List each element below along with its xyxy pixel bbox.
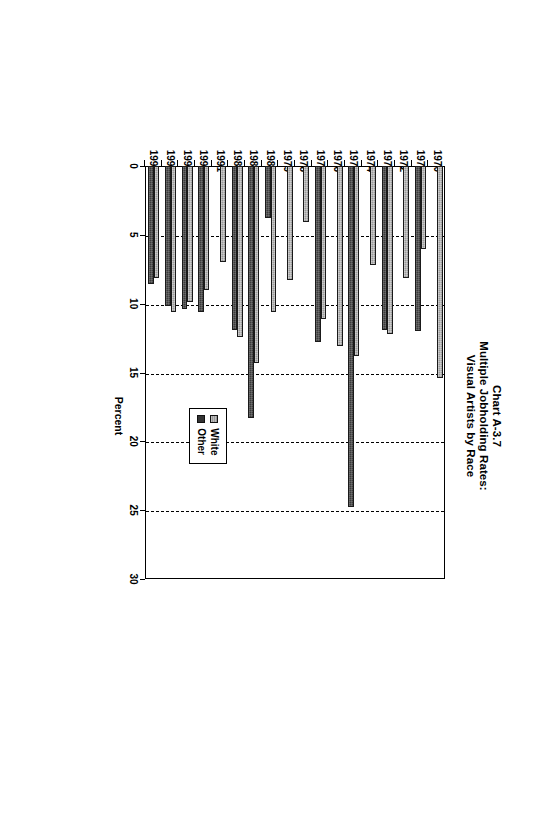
bar-white-1997 xyxy=(154,166,160,278)
y-tick-1971 xyxy=(411,160,412,166)
bar-white-1989 xyxy=(237,166,243,337)
white-hatched-swatch xyxy=(210,415,218,423)
y-tick-1978 xyxy=(294,160,295,166)
bar-other-1973 xyxy=(382,166,388,330)
bar-white-1979 xyxy=(287,166,293,280)
legend-label-white: White xyxy=(208,428,221,455)
x-tick-10 xyxy=(140,304,145,305)
y-tick-1974 xyxy=(361,160,362,166)
chart-canvas: Chart A-3.7 Multiple Jobholding Rates: V… xyxy=(35,46,505,786)
gridline-25 xyxy=(146,511,444,512)
bar-other-1995 xyxy=(182,166,188,309)
x-tick-15 xyxy=(140,373,145,374)
legend-item-white: White xyxy=(208,415,221,455)
legend-label-other: Other xyxy=(195,428,208,455)
bar-white-1995 xyxy=(187,166,193,302)
bar-white-1977 xyxy=(321,166,327,319)
bar-other-1971 xyxy=(415,166,421,331)
bar-other-1977 xyxy=(315,166,321,342)
legend-item-other: Other xyxy=(195,415,208,455)
bar-white-1974 xyxy=(370,166,376,265)
bar-white-1978 xyxy=(304,166,310,222)
bar-white-1970 xyxy=(437,166,443,378)
gridline-15 xyxy=(146,374,444,375)
bar-white-1976 xyxy=(337,166,343,346)
chart-title-line-2: Multiple Jobholding Rates: xyxy=(477,46,490,786)
y-tick-1975 xyxy=(344,160,345,166)
y-tick-1995 xyxy=(177,160,178,166)
x-tick-label-30: 30 xyxy=(128,573,139,584)
bar-white-1996 xyxy=(171,166,177,312)
chart-figure: Chart A-3.7 Multiple Jobholding Rates: V… xyxy=(0,0,540,832)
bar-other-1997 xyxy=(148,166,154,284)
x-tick-label-20: 20 xyxy=(128,436,139,447)
x-tick-label-5: 5 xyxy=(128,232,139,238)
y-tick-1991 xyxy=(211,160,212,166)
y-tick-1994 xyxy=(194,160,195,166)
y-tick-1989 xyxy=(227,160,228,166)
bar-other-1989 xyxy=(232,166,238,330)
bar-white-1980 xyxy=(271,166,277,312)
x-axis-title: Percent xyxy=(113,46,125,786)
dark-solid-swatch xyxy=(197,415,205,423)
x-tick-label-0: 0 xyxy=(128,163,139,169)
bar-other-1980 xyxy=(265,166,271,218)
bar-white-1985 xyxy=(254,166,260,363)
bar-white-1971 xyxy=(421,166,427,249)
legend: WhiteOther xyxy=(189,408,227,463)
bar-other-1996 xyxy=(165,166,171,306)
bar-white-1972 xyxy=(404,166,410,278)
bar-other-1975 xyxy=(348,166,354,507)
chart-title-line-3: Visual Artists by Race xyxy=(464,46,477,786)
y-tick-1972 xyxy=(394,160,395,166)
y-tick-1970 xyxy=(427,160,428,166)
y-tick-1997 xyxy=(144,160,145,166)
x-tick-label-10: 10 xyxy=(128,298,139,309)
x-tick-label-25: 25 xyxy=(128,505,139,516)
x-tick-0 xyxy=(140,166,145,167)
y-tick-1985 xyxy=(244,160,245,166)
bar-white-1973 xyxy=(387,166,393,334)
x-tick-25 xyxy=(140,510,145,511)
bar-white-1991 xyxy=(220,166,226,262)
gridline-10 xyxy=(146,305,444,306)
bar-white-1975 xyxy=(354,166,360,356)
x-tick-20 xyxy=(140,441,145,442)
x-tick-label-15: 15 xyxy=(128,367,139,378)
y-tick-1977 xyxy=(311,160,312,166)
y-tick-1979 xyxy=(277,160,278,166)
bar-other-1994 xyxy=(198,166,204,312)
y-tick-1996 xyxy=(161,160,162,166)
y-tick-1973 xyxy=(377,160,378,166)
x-tick-30 xyxy=(140,579,145,580)
bar-white-1994 xyxy=(204,166,210,290)
y-tick-1980 xyxy=(261,160,262,166)
x-tick-5 xyxy=(140,235,145,236)
y-tick-1976 xyxy=(327,160,328,166)
chart-title-line-1: Chart A-3.7 xyxy=(490,46,503,786)
bar-other-1985 xyxy=(248,166,254,418)
